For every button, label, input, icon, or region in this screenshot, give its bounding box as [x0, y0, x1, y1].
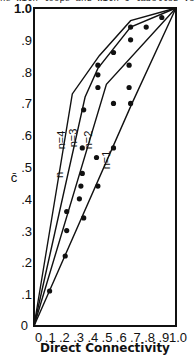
data-point	[78, 184, 83, 189]
data-point	[94, 155, 99, 160]
data-point	[81, 215, 86, 220]
data-point	[128, 37, 133, 42]
data-point	[95, 85, 100, 90]
y-tick-label: .7	[21, 96, 32, 111]
y-tick-label: .8	[21, 65, 32, 80]
data-point	[64, 228, 69, 233]
y-tick-label: .5	[21, 160, 32, 175]
data-point	[111, 50, 116, 55]
data-point	[47, 288, 52, 293]
y-tick-label: 0	[21, 318, 28, 333]
data-point	[77, 196, 82, 201]
data-point	[95, 72, 100, 77]
data-point	[111, 145, 116, 150]
chart: 0.1.2.3.4.5.6.7.8.91.0 0.1.2.3.4.5.6.7.8…	[0, 0, 195, 356]
curve-label: n=3	[67, 129, 79, 148]
data-point	[64, 209, 69, 214]
data-point	[128, 101, 133, 106]
curve-label: n=4	[55, 131, 67, 150]
data-point	[80, 171, 85, 176]
data-point	[127, 63, 132, 68]
x-axis-label: Direct Connectivity	[40, 341, 170, 355]
data-point	[63, 253, 68, 258]
curve-label: n=1	[100, 151, 112, 170]
data-point	[95, 184, 100, 189]
y-tick-label: .9	[21, 33, 32, 48]
curve-label: n=2	[82, 131, 94, 150]
y-tick-label: .3	[21, 224, 32, 239]
x-tick-label: 1.0	[169, 330, 187, 345]
data-point	[128, 25, 133, 30]
y-tick-label: .2	[21, 255, 32, 270]
y-tick-label: 1.0	[14, 1, 32, 16]
y-axis-label: c̄	[11, 170, 18, 185]
data-point	[111, 101, 116, 106]
data-point	[144, 25, 149, 30]
data-point	[95, 63, 100, 68]
curve-label: n	[53, 172, 65, 178]
y-tick-label: .6	[21, 128, 32, 143]
data-point	[127, 85, 132, 90]
y-tick-label: .1	[21, 287, 32, 302]
y-tick-label: .4	[21, 192, 32, 207]
data-point	[81, 107, 86, 112]
y-axis-ticks: 0.1.2.3.4.5.6.7.8.91.0	[14, 1, 32, 333]
data-point	[159, 15, 164, 20]
